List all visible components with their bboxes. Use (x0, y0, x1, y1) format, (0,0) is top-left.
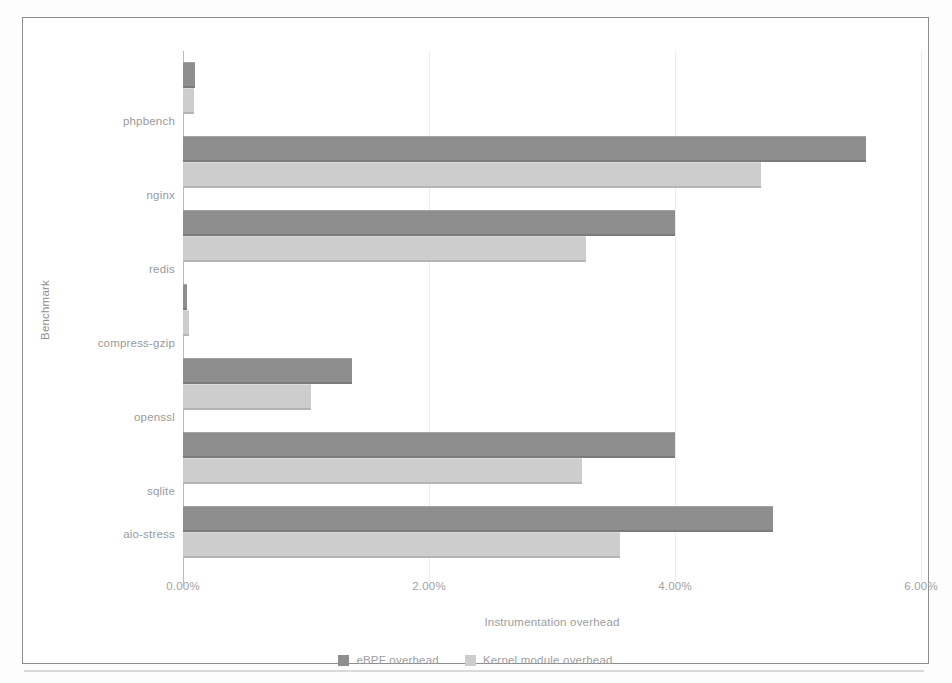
bar-group-compress-gzip (183, 284, 921, 336)
y-axis-tick-labels: phpbench nginx redis compress-gzip opens… (53, 51, 175, 569)
y-tick-label-phpbench: phpbench (123, 115, 175, 127)
bar-face (183, 310, 189, 336)
plot-area (183, 51, 921, 569)
y-tick-label-sqlite: sqlite (147, 485, 175, 497)
x-tick-label-4.00%: 4.00% (658, 580, 692, 592)
bar-nginx-kernel-module (183, 162, 761, 188)
x-axis-tick-labels: 0.00%2.00%4.00%6.00% (183, 580, 921, 598)
y-tick-label-redis: redis (149, 263, 175, 275)
y-tick-label-compress-gzip: compress-gzip (98, 337, 175, 349)
bar-openssl-kernel-module (183, 384, 311, 410)
bar-face (183, 506, 773, 532)
bar-face (183, 88, 194, 114)
bar-group-redis (183, 210, 921, 262)
bar-phpbench-kernel-module (183, 88, 194, 114)
y-tick-label-aio-stress: aio-stress (123, 528, 175, 540)
legend-label-ebpf: eBPF overhead (356, 654, 439, 666)
gridline-6.00% (921, 51, 922, 581)
bar-group-sqlite (183, 432, 921, 484)
bar-face (183, 358, 352, 384)
bar-redis-kernel-module (183, 236, 586, 262)
bar-group-aio-stress (183, 506, 921, 558)
bar-openssl-ebpf (183, 358, 352, 384)
legend-label-kernel-module: Kernel module overhead (483, 654, 613, 666)
bar-face (183, 384, 311, 410)
bar-face (183, 210, 675, 236)
legend-swatch-icon-kernel-module (465, 655, 476, 666)
bar-aio-stress-kernel-module (183, 532, 620, 558)
legend-swatch-icon-ebpf (338, 655, 349, 666)
bar-face (183, 532, 620, 558)
scan-edge-artifact (24, 670, 924, 672)
bar-phpbench-ebpf (183, 62, 195, 88)
legend-item-kernel-module-overhead: Kernel module overhead (465, 654, 613, 666)
bar-sqlite-kernel-module (183, 458, 582, 484)
x-tick-label-2.00%: 2.00% (412, 580, 446, 592)
figure-frame: Benchmark phpbench nginx redis compress-… (22, 17, 929, 664)
bar-compress-gzip-ebpf (183, 284, 187, 310)
y-tick-label-openssl: openssl (134, 411, 175, 423)
legend-item-ebpf-overhead: eBPF overhead (338, 654, 439, 666)
bar-sqlite-ebpf (183, 432, 675, 458)
bar-nginx-ebpf (183, 136, 866, 162)
bar-group-nginx (183, 136, 921, 188)
y-tick-label-nginx: nginx (147, 189, 176, 201)
bar-face (183, 136, 866, 162)
figure-page: Benchmark phpbench nginx redis compress-… (0, 0, 952, 683)
bar-compress-gzip-kernel-module (183, 310, 189, 336)
bar-face (183, 162, 761, 188)
x-axis-title: Instrumentation overhead (183, 616, 921, 628)
y-axis-title: Benchmark (39, 280, 51, 340)
bar-face (183, 458, 582, 484)
bar-aio-stress-ebpf (183, 506, 773, 532)
bar-group-openssl (183, 358, 921, 410)
x-tick-label-6.00%: 6.00% (904, 580, 938, 592)
chart-legend: eBPF overhead Kernel module overhead (23, 654, 928, 666)
x-tick-label-0.00%: 0.00% (166, 580, 200, 592)
bar-face (183, 284, 187, 310)
bar-face (183, 236, 586, 262)
bar-face (183, 432, 675, 458)
bar-redis-ebpf (183, 210, 675, 236)
bar-group-phpbench (183, 62, 921, 114)
bar-face (183, 62, 195, 88)
